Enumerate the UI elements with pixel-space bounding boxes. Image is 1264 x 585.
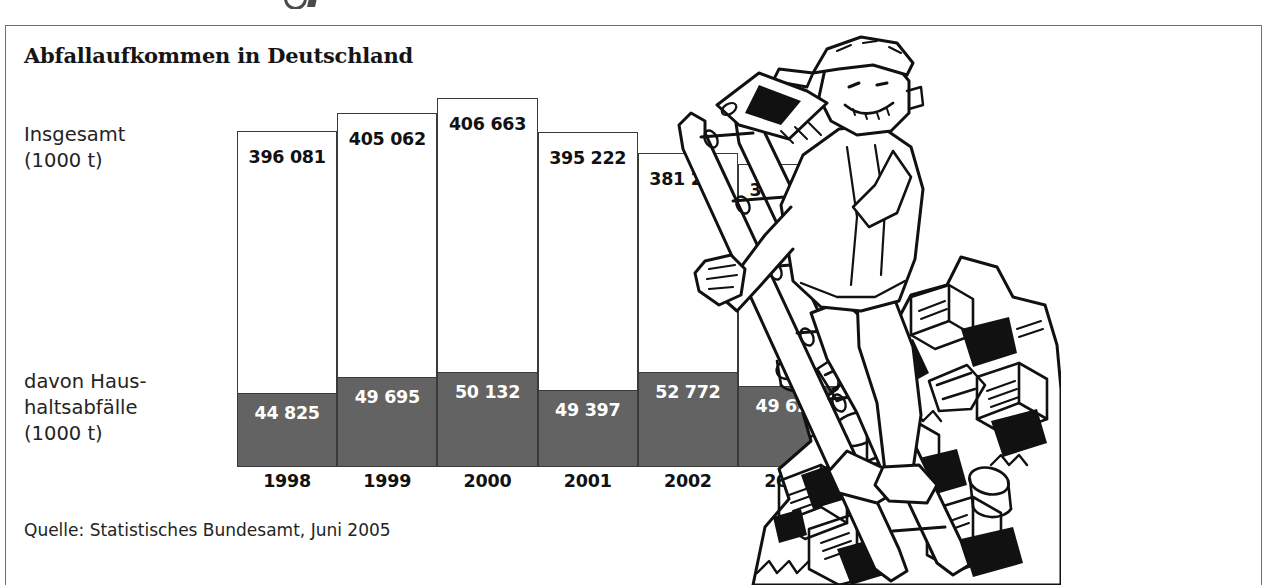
illustration-man-on-garbage-pile <box>661 29 1061 585</box>
value-label-total-2000: 406 663 <box>437 114 537 134</box>
series-label-total: Insgesamt (1000 t) <box>24 122 125 174</box>
value-label-total-2001: 395 222 <box>538 148 638 168</box>
cropped-headline-remnant <box>284 0 330 9</box>
value-label-household-1998: 44 825 <box>237 403 337 423</box>
bar-total-2000 <box>437 98 537 467</box>
year-label-2000: 2000 <box>437 471 537 491</box>
infographic-frame: Abfallaufkommen in Deutschland Insgesamt… <box>5 25 1262 585</box>
bar-column-2001: 395 22249 397 <box>538 26 638 467</box>
bar-column-1998: 396 08144 825 <box>237 26 337 467</box>
year-label-1998: 1998 <box>237 471 337 491</box>
value-label-household-1999: 49 695 <box>337 387 437 407</box>
value-label-household-2001: 49 397 <box>538 400 638 420</box>
bar-column-2000: 406 66350 132 <box>437 26 537 467</box>
bar-total-1999 <box>337 113 437 467</box>
value-label-household-2000: 50 132 <box>437 382 537 402</box>
series-label-household: davon Haus- haltsabfälle (1000 t) <box>24 369 147 447</box>
value-label-total-1998: 396 081 <box>237 147 337 167</box>
remnant-glyph-o <box>284 0 307 9</box>
remnant-glyph-tail <box>307 0 317 7</box>
year-label-2001: 2001 <box>538 471 638 491</box>
bar-column-1999: 405 06249 695 <box>337 26 437 467</box>
value-label-total-1999: 405 062 <box>337 129 437 149</box>
year-label-1999: 1999 <box>337 471 437 491</box>
